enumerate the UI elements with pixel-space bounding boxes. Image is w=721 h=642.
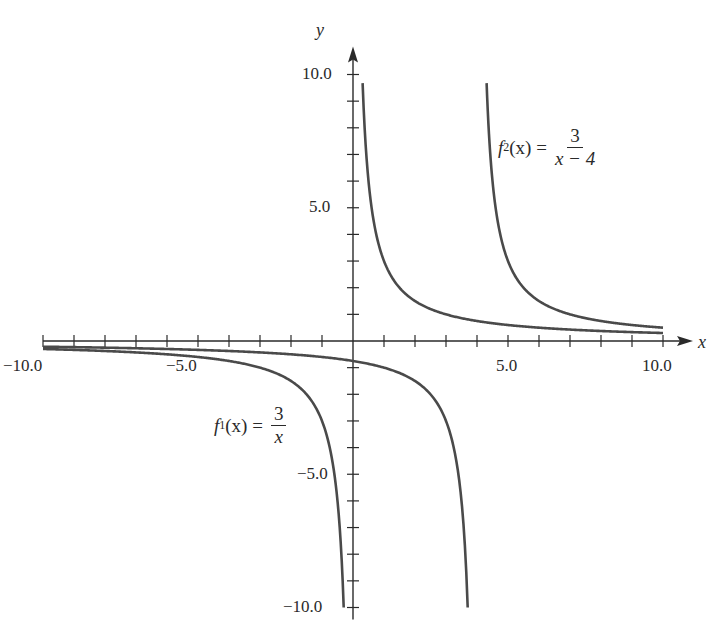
y-tick-label-5: 5.0 xyxy=(309,197,330,217)
x-tick-label-5: 5.0 xyxy=(496,356,517,376)
f2-equation-label: f2(x) = 3 x − 4 xyxy=(498,125,595,170)
x-tick-label-neg10: −10.0 xyxy=(3,356,42,376)
f1-equation-label: f1(x) = 3 x xyxy=(214,403,286,448)
y-tick-label-neg10: −10.0 xyxy=(283,597,322,617)
x-axis-label: x xyxy=(698,332,706,353)
curve-f2-branch-1 xyxy=(43,347,468,608)
y-tick-label-neg5: −5.0 xyxy=(297,464,328,484)
curve-f2-branch-2 xyxy=(487,83,663,328)
f2-fraction: 3 x − 4 xyxy=(555,125,595,170)
x-tick-label-10: 10.0 xyxy=(642,356,672,376)
f1-fraction: 3 x xyxy=(271,403,287,448)
y-tick-label-10: 10.0 xyxy=(302,64,332,84)
x-tick-label-neg5: −5.0 xyxy=(166,356,197,376)
curve-f1-branch-2 xyxy=(363,83,663,333)
plot-area xyxy=(0,0,721,642)
axes xyxy=(43,47,693,620)
y-axis-label: y xyxy=(316,20,324,41)
